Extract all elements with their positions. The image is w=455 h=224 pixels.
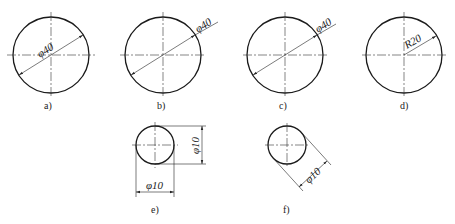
view-label-d: d)	[400, 100, 408, 112]
view-e: φ10 φ10 e)	[132, 122, 206, 216]
view-label-c: c)	[279, 100, 287, 112]
dimension-text-h-e: φ10	[146, 179, 164, 191]
view-label-b: b)	[157, 100, 165, 112]
dimension-text-d: R20	[401, 31, 424, 51]
view-a: φ40 a)	[7, 12, 95, 112]
view-b: φ40 b)	[120, 12, 218, 112]
view-label-e: e)	[151, 204, 159, 216]
dimension-text-v-e: φ10	[189, 136, 201, 154]
dimension-text-a: φ40	[35, 40, 56, 59]
view-label-f: f)	[283, 204, 290, 216]
view-f: φ10 f)	[265, 123, 331, 216]
dimensioning-drawing: φ40 a) φ40 b) φ40 c) R20 d)	[0, 0, 455, 224]
dimension-text-b: φ40	[193, 15, 214, 34]
view-d: R20 d)	[362, 12, 446, 112]
view-c: φ40 c)	[243, 12, 336, 112]
dimension-text-c: φ40	[313, 15, 334, 34]
extension-lower-f	[273, 158, 303, 191]
view-label-a: a)	[44, 100, 52, 112]
